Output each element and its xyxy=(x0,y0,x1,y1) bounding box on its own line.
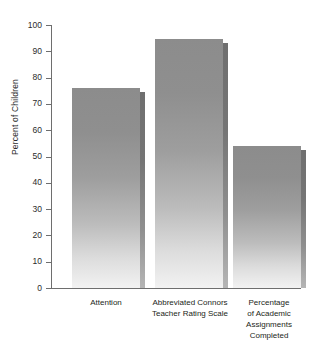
category-label-line: Percentage xyxy=(231,297,307,308)
y-axis-tick xyxy=(46,288,51,289)
y-axis-tick xyxy=(46,262,51,263)
category-label-line: Teacher Rating Scale xyxy=(143,308,237,319)
y-axis-tick xyxy=(46,104,51,105)
bar-shadow xyxy=(223,43,228,288)
x-axis-category-label: Abbreviated ConnorsTeacher Rating Scale xyxy=(143,297,237,319)
y-axis-tick-label: 40 xyxy=(2,178,42,187)
y-axis-tick-label: 60 xyxy=(2,126,42,135)
y-axis-tick xyxy=(46,235,51,236)
y-axis-tick-label: 90 xyxy=(2,47,42,56)
y-axis-tick-label: 30 xyxy=(2,205,42,214)
bar-shadow xyxy=(140,92,145,288)
bar-shadow xyxy=(301,150,306,288)
y-axis-tick xyxy=(46,209,51,210)
y-axis-tick-label: 100 xyxy=(2,21,42,30)
y-axis-tick xyxy=(46,78,51,79)
y-axis-title: Percent of Children xyxy=(10,52,20,182)
bar xyxy=(155,39,223,288)
y-axis-tick-label: 10 xyxy=(2,257,42,266)
y-axis-tick-label: 20 xyxy=(2,231,42,240)
y-axis-tick xyxy=(46,157,51,158)
category-label-line: of Academic xyxy=(231,308,307,319)
y-axis-line xyxy=(51,25,52,289)
bar xyxy=(72,88,140,288)
x-axis-line xyxy=(51,288,301,289)
y-axis-tick xyxy=(46,183,51,184)
y-axis-tick-label: 50 xyxy=(2,152,42,161)
category-label-line: Attention xyxy=(62,297,150,308)
y-axis-tick-label: 70 xyxy=(2,99,42,108)
bar-chart-figure: Percent of Children 01020304050607080901… xyxy=(0,0,313,343)
y-axis-tick-label: 80 xyxy=(2,73,42,82)
y-axis-tick xyxy=(46,130,51,131)
y-axis-tick xyxy=(46,51,51,52)
y-axis-tick xyxy=(46,25,51,26)
category-label-line: Assignments xyxy=(231,319,307,330)
category-label-line: Completed xyxy=(231,330,307,341)
x-axis-category-label: Percentageof AcademicAssignmentsComplete… xyxy=(231,297,307,341)
bar xyxy=(233,146,301,288)
x-axis-category-label: Attention xyxy=(62,297,150,308)
category-label-line: Abbreviated Connors xyxy=(143,297,237,308)
y-axis-tick-label: 0 xyxy=(2,284,42,293)
